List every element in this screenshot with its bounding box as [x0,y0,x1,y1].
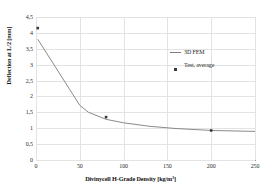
y-tick-label: 3 [9,62,33,68]
x-tick-label: 250 [242,163,261,169]
legend-label-3d-fem: 3D FEM [184,49,205,56]
series-marker-test-average [105,116,108,119]
chart-legend: 3D FEM Test, average [170,46,250,72]
legend-item-3d-fem: 3D FEM [170,46,250,59]
x-tick-label: 150 [154,163,180,169]
x-tick-label: 200 [198,163,224,169]
y-tick-label: 1,5 [9,109,33,115]
x-tick-label: 50 [67,163,93,169]
legend-line-swatch-icon [170,52,181,53]
data-series-layer [36,17,255,160]
series-marker-test-average [210,129,213,132]
y-axis-title: Deflection at L/2 [mm] [5,0,12,116]
legend-item-test-average: Test, average [170,59,250,72]
series-marker-test-average [36,27,39,30]
gridline-vertical [255,17,256,160]
chart-figure: 00,511,522,533,544,5 050100150200250 Def… [0,0,261,195]
y-tick-label: 1 [9,125,33,131]
legend-square-swatch-icon [170,57,181,75]
y-tick-label: 4 [9,30,33,36]
x-axis-title: Divinycell H-Grade Density [kg/m³] [0,175,261,182]
x-tick-label: 0 [23,163,49,169]
y-tick-label: 3,5 [9,46,33,52]
y-tick-label: 4,5 [9,14,33,20]
y-tick-label: 0,5 [9,141,33,147]
gridline-horizontal [36,160,255,161]
y-tick-label: 2 [9,93,33,99]
legend-label-test-average: Test, average [184,62,214,69]
plot-area [36,17,255,160]
x-tick-label: 100 [111,163,137,169]
y-tick-label: 2,5 [9,78,33,84]
